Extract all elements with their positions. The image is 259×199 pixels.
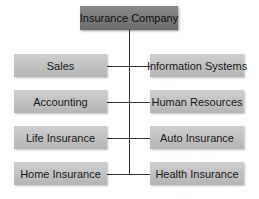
node-label: Auto Insurance <box>160 132 234 144</box>
node-accounting: Accounting <box>14 90 107 113</box>
node-label: Human Resources <box>151 96 242 108</box>
node-label: Life Insurance <box>26 132 95 144</box>
root-label: Insurance Company <box>80 12 178 24</box>
node-label: Sales <box>47 60 75 72</box>
node-label: Health Insurance <box>155 168 238 180</box>
node-label: Home Insurance <box>20 168 101 180</box>
node-label: Accounting <box>33 96 87 108</box>
node-information-systems: Information Systems <box>150 54 244 77</box>
node-label: Information Systems <box>147 60 247 72</box>
node-human-resources: Human Resources <box>150 90 244 113</box>
node-sales: Sales <box>14 54 107 77</box>
node-life-insurance: Life Insurance <box>14 126 107 149</box>
node-home-insurance: Home Insurance <box>14 162 107 185</box>
root-node: Insurance Company <box>80 6 178 30</box>
connector <box>107 66 150 67</box>
connector <box>107 138 150 139</box>
connector <box>107 174 150 175</box>
connector <box>107 102 150 103</box>
node-health-insurance: Health Insurance <box>150 162 244 185</box>
node-auto-insurance: Auto Insurance <box>150 126 244 149</box>
